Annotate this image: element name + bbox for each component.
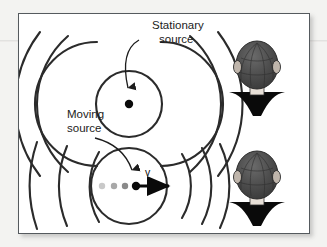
moving-source-label-line2: source bbox=[67, 122, 102, 134]
stationary-source-label-line1: Stationary bbox=[152, 19, 204, 31]
source-trail-dot-1 bbox=[99, 183, 105, 189]
observer-top bbox=[229, 41, 285, 116]
observer-bottom: Observer bbox=[229, 151, 285, 232]
observer-top-shoulders bbox=[229, 92, 285, 116]
moving-source-leader-arrow bbox=[95, 138, 132, 170]
observer-top-ear-left bbox=[234, 61, 242, 74]
wavefronts-stationary-right bbox=[161, 32, 243, 176]
wavefronts-moving-left bbox=[30, 142, 99, 229]
doppler-diagram: Stationary source bbox=[19, 14, 308, 232]
figure-frame: Stationary source bbox=[18, 13, 310, 234]
observer-top-ear-right bbox=[273, 61, 281, 74]
observer-bottom-ear-left bbox=[234, 171, 242, 184]
stationary-source-label-line2: source bbox=[159, 33, 194, 45]
panel-stationary: Stationary source bbox=[19, 19, 243, 176]
velocity-label: v bbox=[145, 166, 151, 178]
page-background: Stationary source bbox=[0, 0, 327, 247]
observer-bottom-ear-right bbox=[273, 171, 281, 184]
wavefronts-stationary-left bbox=[19, 32, 97, 176]
observer-label: Observer bbox=[233, 230, 280, 232]
stationary-source-leader-arrow bbox=[126, 40, 139, 88]
source-trail-dot-2 bbox=[111, 183, 117, 189]
wavefronts-moving-right bbox=[182, 144, 229, 228]
observer-bottom-shoulders bbox=[229, 202, 285, 226]
source-trail-dot-3 bbox=[122, 183, 128, 189]
panel-moving: v Moving source bbox=[30, 108, 230, 229]
stationary-source-dot bbox=[125, 100, 133, 108]
moving-source-label-line1: Moving bbox=[67, 108, 104, 120]
